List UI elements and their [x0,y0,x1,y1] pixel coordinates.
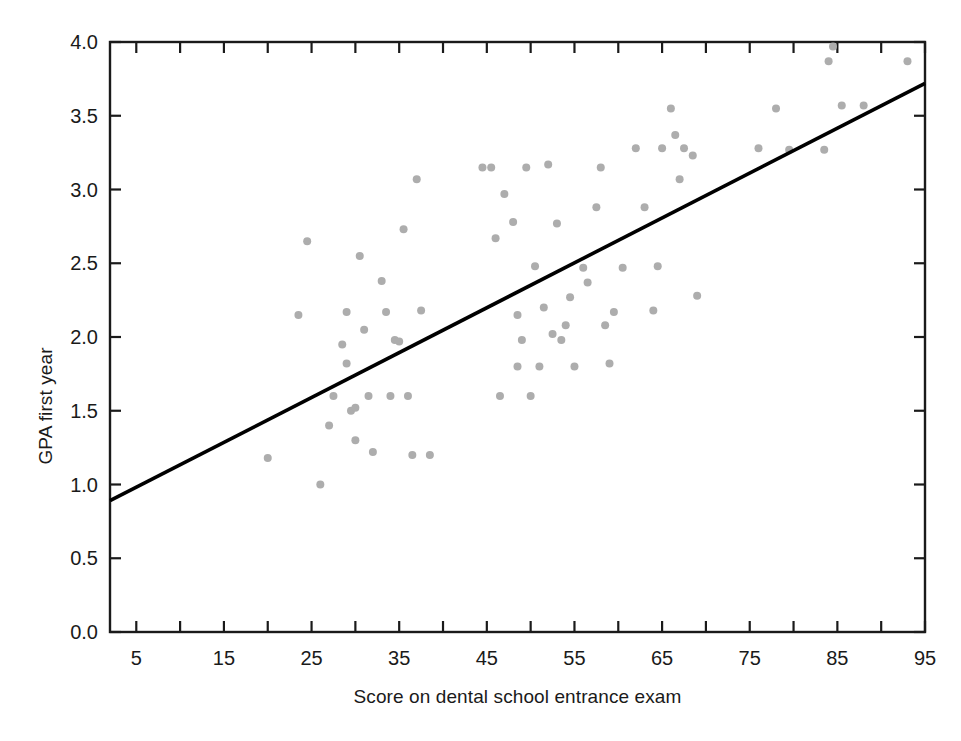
data-point [632,144,640,152]
data-point [338,340,346,348]
data-point [509,218,517,226]
data-point [654,262,662,270]
data-point [557,336,565,344]
data-point [680,144,688,152]
data-point [689,152,697,160]
data-point [566,293,574,301]
data-point [329,392,337,400]
data-point [351,404,359,412]
data-point [860,101,868,109]
data-point [325,422,333,430]
data-point [514,363,522,371]
data-point [478,163,486,171]
data-point [592,203,600,211]
data-point [514,311,522,319]
data-point [527,392,535,400]
data-point [500,190,508,198]
scatter-plot-figure: GPA first year Score on dental school en… [0,0,961,741]
data-point [570,363,578,371]
data-point [378,277,386,285]
data-point [676,175,684,183]
data-point [825,57,833,65]
data-point-layer [264,42,912,488]
data-point [597,163,605,171]
data-point [671,131,679,139]
data-point [641,203,649,211]
data-point [544,160,552,168]
data-point [426,451,434,459]
regression-line [110,83,925,500]
data-point [351,436,359,444]
data-point [343,360,351,368]
data-point [316,481,324,489]
data-point [649,306,657,314]
data-point [903,57,911,65]
data-point [820,146,828,154]
axis-frame [110,42,925,632]
data-point [400,225,408,233]
tick-marks [110,42,925,632]
data-point [535,363,543,371]
data-point [496,392,504,400]
data-point [408,451,416,459]
data-point [658,144,666,152]
data-point [601,321,609,329]
data-point [549,330,557,338]
data-point [360,326,368,334]
data-point [386,392,394,400]
data-point [562,321,570,329]
data-point [522,163,530,171]
data-point [693,292,701,300]
data-point [369,448,377,456]
data-point [584,278,592,286]
data-point [294,311,302,319]
data-point [303,237,311,245]
data-point [487,163,495,171]
data-point [619,264,627,272]
data-point [492,234,500,242]
data-point [829,42,837,50]
data-point [417,306,425,314]
data-point [838,101,846,109]
regression-line-layer [110,83,925,500]
data-point [579,264,587,272]
data-point [413,175,421,183]
data-point [754,144,762,152]
data-point [395,337,403,345]
data-point [606,360,614,368]
data-point [343,308,351,316]
data-point [553,219,561,227]
data-point [264,454,272,462]
data-point [404,392,412,400]
data-point [382,308,390,316]
data-point [667,104,675,112]
data-point [540,304,548,312]
data-point [610,308,618,316]
data-point [531,262,539,270]
data-point [772,104,780,112]
data-point [518,336,526,344]
data-point [365,392,373,400]
plot-canvas [0,0,961,741]
data-point [356,252,364,260]
